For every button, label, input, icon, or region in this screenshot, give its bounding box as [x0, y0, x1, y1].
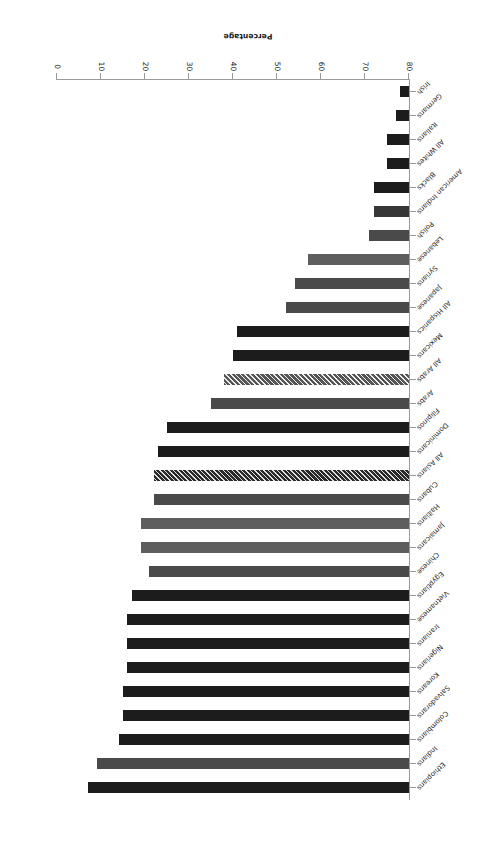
category-tick [410, 571, 416, 572]
bar-indians [97, 758, 409, 769]
bar-row [57, 102, 409, 128]
category-tick [410, 427, 416, 428]
bar-italians [387, 134, 409, 145]
bar-row [57, 126, 409, 152]
bar-mexicans [233, 350, 409, 361]
value-axis-title: Percentage [201, 32, 295, 41]
category-tick [410, 595, 416, 596]
bar-egyptians [132, 590, 409, 601]
category-tick [410, 475, 416, 476]
bar-row [57, 174, 409, 200]
category-tick [410, 379, 416, 380]
bar-row [57, 390, 409, 416]
bar-nigerians [127, 662, 409, 673]
value-tick-label: 10 [97, 55, 106, 79]
bar-row [57, 294, 409, 320]
bar-japanese [286, 302, 409, 313]
bar-american-indians [374, 206, 409, 217]
bar-row [57, 246, 409, 272]
bar-row [57, 774, 409, 800]
value-tick-label: 70 [361, 55, 370, 79]
category-tick [410, 211, 416, 212]
bar-row [57, 270, 409, 296]
value-tick-label: 30 [185, 55, 194, 79]
category-tick [410, 523, 416, 524]
bar-koreans [123, 686, 409, 697]
chart-figure: Percentage Foreign-Born by Group, 2006 E… [0, 0, 496, 841]
category-tick [410, 259, 416, 260]
bar-row [57, 702, 409, 728]
value-tick-label: 50 [273, 55, 282, 79]
bar-row [57, 150, 409, 176]
value-axis-line [56, 79, 410, 80]
bar-iranians [127, 638, 409, 649]
bar-row [57, 534, 409, 560]
bar-syrians [295, 278, 409, 289]
bar-row [57, 678, 409, 704]
bar-all-hispanics [237, 326, 409, 337]
category-tick [410, 739, 416, 740]
bar-row [57, 486, 409, 512]
category-tick [410, 619, 416, 620]
bar-row [57, 198, 409, 224]
value-tick-label: 60 [317, 55, 326, 79]
category-tick [410, 715, 416, 716]
bar-row [57, 222, 409, 248]
category-tick [410, 163, 416, 164]
category-tick [410, 547, 416, 548]
bar-row [57, 366, 409, 392]
category-tick [410, 187, 416, 188]
category-tick [410, 331, 416, 332]
bar-ethiopians [88, 782, 409, 793]
bar-row [57, 510, 409, 536]
bar-salvadorans [123, 710, 409, 721]
bar-row [57, 438, 409, 464]
bar-arabs [211, 398, 409, 409]
category-tick [410, 139, 416, 140]
bar-blacks [374, 182, 409, 193]
bar-row [57, 78, 409, 104]
bar-jamaicans [141, 542, 409, 553]
category-tick [410, 643, 416, 644]
category-tick [410, 307, 416, 308]
bar-row [57, 558, 409, 584]
bar-row [57, 654, 409, 680]
bar-all-whites [387, 158, 409, 169]
category-tick [410, 235, 416, 236]
category-tick [410, 667, 416, 668]
category-tick [410, 355, 416, 356]
bar-chinese [149, 566, 409, 577]
bar-row [57, 342, 409, 368]
category-tick [410, 763, 416, 764]
bar-row [57, 318, 409, 344]
bar-irish [400, 86, 409, 97]
bar-row [57, 582, 409, 608]
value-tick-label: 80 [405, 55, 414, 79]
bar-row [57, 630, 409, 656]
bar-dominicans [158, 446, 409, 457]
bar-colombians [119, 734, 409, 745]
category-tick [410, 787, 416, 788]
bar-all-asians [154, 470, 409, 481]
category-tick [410, 499, 416, 500]
bar-cubans [154, 494, 409, 505]
bar-row [57, 414, 409, 440]
category-tick [410, 283, 416, 284]
category-tick [410, 91, 416, 92]
plot-area [57, 80, 409, 800]
bar-lebanese [308, 254, 409, 265]
bar-row [57, 462, 409, 488]
bar-all-arabs [224, 374, 409, 385]
category-tick [410, 451, 416, 452]
value-tick-label: 20 [141, 55, 150, 79]
bar-row [57, 750, 409, 776]
category-axis-line [409, 80, 410, 800]
bar-haitians [141, 518, 409, 529]
bar-vietnamese [127, 614, 409, 625]
value-tick-label: 40 [229, 55, 238, 79]
bar-polish [369, 230, 409, 241]
bar-germans [396, 110, 409, 121]
bar-row [57, 606, 409, 632]
category-tick [410, 691, 416, 692]
bar-filipinos [167, 422, 409, 433]
